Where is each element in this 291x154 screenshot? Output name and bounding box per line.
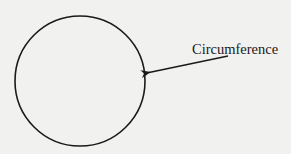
arrow-pointer: [149, 56, 228, 73]
circumference-label: Circumference: [192, 41, 278, 58]
circle-shape: [15, 16, 145, 146]
diagram-canvas: [0, 0, 291, 154]
